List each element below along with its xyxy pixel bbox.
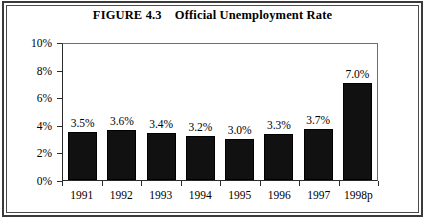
bar: [68, 132, 97, 180]
bar-group: 3.5%: [63, 44, 102, 180]
x-tick-label: 1996: [260, 189, 300, 202]
bar-group: 3.3%: [259, 44, 298, 180]
x-tick-mark: [102, 181, 103, 186]
bar: [304, 129, 333, 180]
x-tick-label: 1994: [181, 189, 221, 202]
bar-series: 3.5%3.6%3.4%3.2%3.0%3.3%3.7%7.0%: [63, 44, 377, 180]
y-axis: 0%2%4%6%8%10%: [0, 0, 62, 219]
bar-value-label: 3.7%: [299, 114, 338, 126]
bar-value-label: 3.6%: [102, 115, 141, 127]
bar: [343, 83, 372, 180]
x-tick-mark: [141, 181, 142, 186]
x-axis-labels: 19911992199319941995199619971998p: [62, 189, 378, 202]
bar-value-label: 7.0%: [338, 68, 377, 80]
x-tick-mark: [181, 181, 182, 186]
bar-group: 3.0%: [220, 44, 259, 180]
bar-group: 3.4%: [142, 44, 181, 180]
x-tick-label: 1993: [141, 189, 181, 202]
x-tick-label: 1995: [220, 189, 260, 202]
bar-value-label: 3.0%: [220, 124, 259, 136]
x-tick-label: 1991: [62, 189, 102, 202]
bar-group: 7.0%: [338, 44, 377, 180]
bar-group: 3.6%: [102, 44, 141, 180]
bar: [225, 139, 254, 180]
bar-value-label: 3.4%: [142, 118, 181, 130]
bar-group: 3.7%: [299, 44, 338, 180]
bar-value-label: 3.3%: [259, 119, 298, 131]
x-tick-mark: [299, 181, 300, 186]
bar-value-label: 3.2%: [181, 121, 220, 133]
y-tick-label: 4%: [37, 120, 52, 132]
y-tick-label: 2%: [37, 147, 52, 159]
x-tick-mark: [220, 181, 221, 186]
figure-container: FIGURE 4.3 Official Unemployment Rate 0%…: [0, 0, 426, 219]
y-tick-label: 6%: [37, 92, 52, 104]
bar: [264, 134, 293, 180]
y-tick-label: 8%: [37, 65, 52, 77]
x-tick-mark: [339, 181, 340, 186]
x-tick-label: 1998p: [339, 189, 379, 202]
y-tick-label: 0%: [37, 175, 52, 187]
x-tick-label: 1992: [102, 189, 142, 202]
plot-area: 3.5%3.6%3.4%3.2%3.0%3.3%3.7%7.0%: [62, 43, 378, 181]
bar: [147, 133, 176, 180]
y-tick-label: 10%: [31, 37, 52, 49]
x-tick-mark: [62, 181, 63, 186]
bar-value-label: 3.5%: [63, 117, 102, 129]
x-tick-mark: [260, 181, 261, 186]
x-tick-label: 1997: [299, 189, 339, 202]
bar-group: 3.2%: [181, 44, 220, 180]
bar: [186, 136, 215, 180]
bar: [107, 130, 136, 180]
x-tick-mark: [378, 181, 379, 186]
figure-title: FIGURE 4.3 Official Unemployment Rate: [7, 8, 418, 23]
